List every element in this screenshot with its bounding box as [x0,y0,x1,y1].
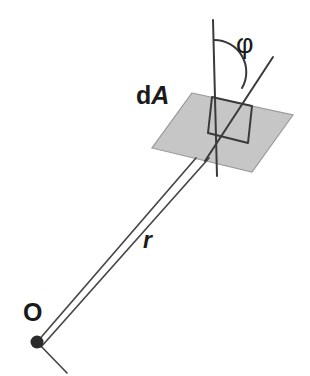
ray-line-left [37,158,196,342]
origin-point-marker [31,336,44,349]
ray-line-right [41,158,209,347]
area-element-label: dA [136,83,169,108]
area-element-symbol: A [151,81,169,109]
solid-angle-diagram: dA φ r O [0,0,310,376]
angle-label: φ [236,31,254,58]
origin-label: O [23,300,42,325]
radius-label: r [143,229,152,252]
area-element-prefix: d [136,81,151,109]
diagram-canvas [0,0,310,376]
